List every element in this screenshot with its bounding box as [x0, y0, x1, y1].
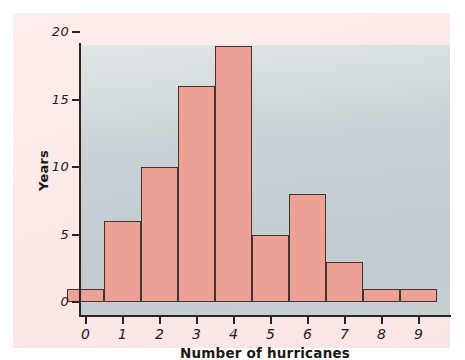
- x-axis-tick: [344, 316, 346, 324]
- bar: [289, 194, 326, 302]
- x-axis-tick: [159, 316, 161, 324]
- x-axis-tick: [122, 316, 124, 324]
- histogram-figure: 05101520 0123456789 Number of hurricanes…: [0, 0, 465, 360]
- x-axis-line: [79, 315, 451, 317]
- x-axis-tick: [85, 316, 87, 324]
- y-axis-tick-label: 5: [29, 227, 69, 242]
- bar: [67, 289, 104, 303]
- bar: [215, 46, 252, 303]
- y-axis-tick-label-wrap: 15: [23, 92, 69, 106]
- bar: [104, 221, 141, 302]
- x-axis-tick-label: 3: [182, 326, 212, 342]
- x-axis-tick-label: 1: [108, 326, 138, 342]
- y-axis-tick-label: 15: [29, 92, 69, 107]
- x-axis-tick: [307, 316, 309, 324]
- y-axis-tick: [72, 166, 80, 168]
- y-axis-tick: [72, 99, 80, 101]
- x-axis-tick-label: 4: [219, 326, 249, 342]
- y-axis-tick-label: 20: [29, 24, 69, 39]
- x-axis-tick-label: 9: [404, 326, 434, 342]
- x-axis-tick: [418, 316, 420, 324]
- y-axis-tick-label: 0: [29, 294, 69, 309]
- x-axis-tick-label: 8: [367, 326, 397, 342]
- bar: [400, 289, 437, 303]
- y-axis-title: Years: [36, 136, 51, 206]
- x-axis-tick: [381, 316, 383, 324]
- bar: [326, 262, 363, 303]
- bar: [363, 289, 400, 303]
- bar: [178, 86, 215, 302]
- bar: [141, 167, 178, 302]
- x-axis-tick-label: 6: [293, 326, 323, 342]
- x-axis-tick-label: 2: [145, 326, 175, 342]
- y-axis-tick-label-wrap: 5: [23, 227, 69, 241]
- y-axis-tick: [72, 301, 80, 303]
- y-axis-tick-label-wrap: 20: [23, 24, 69, 38]
- x-axis-tick-label: 0: [71, 326, 101, 342]
- y-axis-tick: [72, 234, 80, 236]
- bar: [252, 235, 289, 303]
- x-axis-tick-label: 5: [256, 326, 286, 342]
- x-axis-tick: [233, 316, 235, 324]
- x-axis-tick: [270, 316, 272, 324]
- x-axis-title: Number of hurricanes: [80, 345, 450, 360]
- x-axis-tick: [196, 316, 198, 324]
- figure-panel: 05101520 0123456789 Number of hurricanes…: [13, 13, 450, 348]
- x-axis-tick-label: 7: [330, 326, 360, 342]
- y-axis-line: [79, 43, 81, 317]
- y-axis-tick-label-wrap: 0: [23, 294, 69, 308]
- y-axis-tick: [72, 31, 80, 33]
